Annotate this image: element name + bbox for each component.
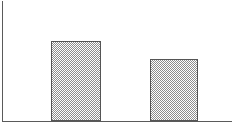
bar-chart-figure (0, 0, 236, 133)
bar-2 (150, 59, 198, 121)
bar-1 (51, 41, 101, 121)
plot-area (0, 0, 236, 133)
bars-group (0, 0, 236, 133)
